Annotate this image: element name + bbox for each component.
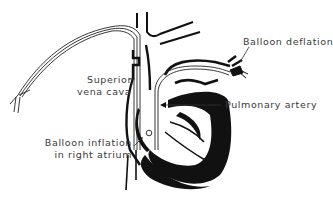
label-pulmonary-artery: Pulmonary artery — [225, 99, 317, 110]
catheter-hub-icon — [10, 90, 30, 113]
label-superior-vena-cava-line2: vena cava — [77, 86, 127, 97]
deflated-balloon-tip-icon — [230, 66, 248, 78]
label-balloon-deflation: Balloon deflation — [243, 36, 333, 47]
label-balloon-inflation-line1: Balloon inflation — [42, 137, 132, 148]
great-vessels — [137, 12, 200, 44]
ventricle-walls — [135, 92, 231, 190]
arrowhead-icons — [138, 102, 166, 142]
inflated-balloon-icon — [146, 130, 152, 136]
label-superior-vena-cava-line1: Superior — [87, 74, 127, 85]
label-balloon-inflation-line2: in right atrium — [42, 149, 132, 160]
